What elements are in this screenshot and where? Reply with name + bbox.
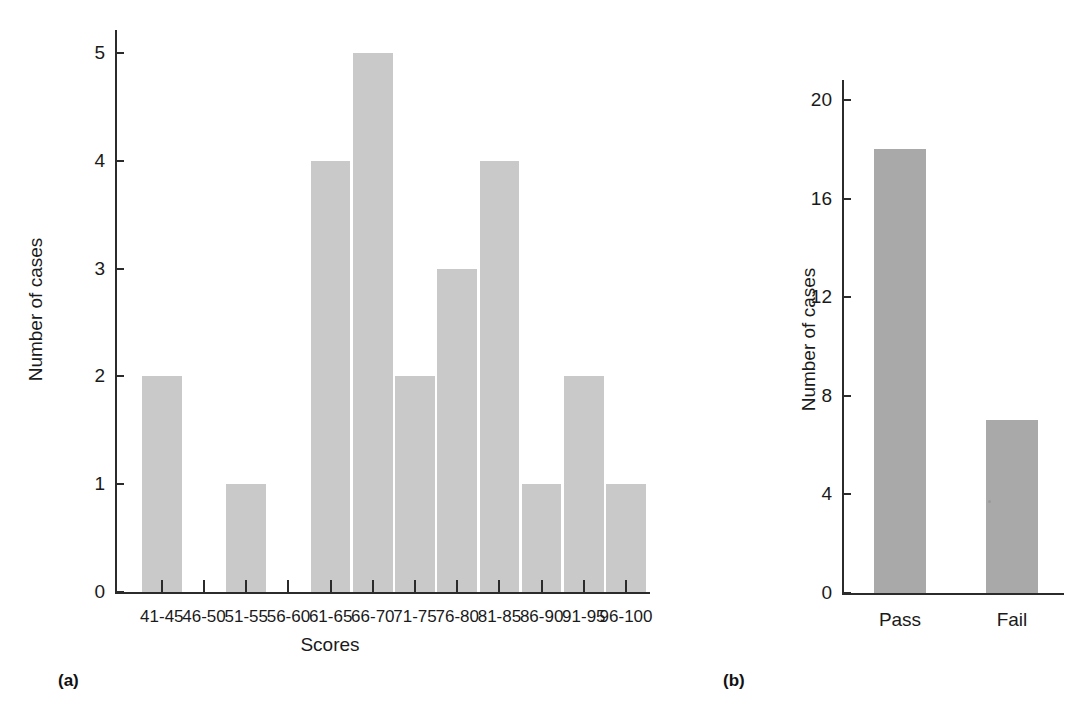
plot-area-b: 048121620PassFail xyxy=(842,80,1052,593)
x-tick-a xyxy=(541,580,543,593)
x-tick-a xyxy=(245,580,247,593)
panel-label-a: (a) xyxy=(58,671,79,691)
x-tick-a xyxy=(498,580,500,593)
x-tick-label-b: Pass xyxy=(850,610,950,629)
x-tick-label-b: Fail xyxy=(962,610,1062,629)
y-tick-a xyxy=(115,591,124,593)
bar-a xyxy=(226,484,266,592)
x-axis-line-b xyxy=(842,593,1064,595)
bar-a xyxy=(311,161,351,592)
y-tick-label-b: 20 xyxy=(794,90,832,109)
bar-a xyxy=(564,376,604,592)
y-tick-label-a: 0 xyxy=(69,582,105,601)
y-tick-label-a: 5 xyxy=(69,43,105,62)
y-tick-b xyxy=(842,493,851,495)
y-tick-a xyxy=(115,52,124,54)
bar-a xyxy=(395,376,435,592)
bar-b xyxy=(986,420,1038,593)
y-tick-label-a: 4 xyxy=(69,151,105,170)
y-tick-b xyxy=(842,296,851,298)
x-tick-a xyxy=(583,580,585,593)
x-axis-title-a: Scores xyxy=(0,635,660,654)
x-tick-a xyxy=(414,580,416,593)
x-axis-line-a xyxy=(115,592,650,594)
x-tick-a xyxy=(625,580,627,593)
print-speck xyxy=(988,500,991,503)
y-tick-a xyxy=(115,160,124,162)
x-tick-label-a: 96-100 xyxy=(586,607,666,626)
y-axis-line-b xyxy=(842,80,844,593)
y-tick-a xyxy=(115,483,124,485)
bar-b xyxy=(874,149,926,593)
plot-area-a: 01234541-4546-5051-5556-6061-6566-7071-7… xyxy=(115,30,660,592)
bar-a xyxy=(142,376,182,592)
y-tick-b xyxy=(842,198,851,200)
y-tick-label-a: 3 xyxy=(69,259,105,278)
y-tick-label-b: 0 xyxy=(794,583,832,602)
bar-a xyxy=(480,161,520,592)
y-tick-b xyxy=(842,592,851,594)
x-tick-a xyxy=(456,580,458,593)
y-tick-label-b: 4 xyxy=(794,484,832,503)
panel-label-b: (b) xyxy=(723,671,745,691)
x-tick-a xyxy=(372,580,374,593)
y-tick-label-a: 2 xyxy=(69,366,105,385)
y-axis-title-b: Number of cases xyxy=(799,240,818,440)
y-tick-a xyxy=(115,268,124,270)
bar-a xyxy=(606,484,646,592)
bar-a xyxy=(437,269,477,592)
figure-a-histogram: 01234541-4546-5051-5556-6061-6566-7071-7… xyxy=(0,0,700,725)
y-tick-a xyxy=(115,375,124,377)
y-tick-b xyxy=(842,99,851,101)
y-tick-label-b: 16 xyxy=(794,189,832,208)
y-tick-label-a: 1 xyxy=(69,474,105,493)
x-tick-a xyxy=(203,580,205,593)
bar-a xyxy=(353,53,393,592)
y-axis-line-a xyxy=(115,30,117,592)
x-tick-a xyxy=(287,580,289,593)
x-tick-a xyxy=(330,580,332,593)
x-tick-a xyxy=(161,580,163,593)
figure-b-barchart: 048121620PassFail Number of cases (b) xyxy=(700,0,1089,725)
bar-a xyxy=(522,484,562,592)
y-tick-b xyxy=(842,395,851,397)
y-axis-title-a: Number of cases xyxy=(26,210,45,410)
